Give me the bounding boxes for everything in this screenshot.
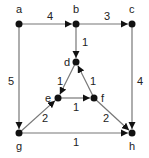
node-label-d: d xyxy=(64,56,70,68)
node-d xyxy=(73,59,80,66)
edge-weight-g-e: 2 xyxy=(42,112,48,124)
node-b xyxy=(73,21,80,28)
node-label-a: a xyxy=(16,3,23,15)
graph-diagram: 43154111221 abcdefgh xyxy=(0,0,149,158)
node-label-f: f xyxy=(101,92,105,104)
edge-weight-f-h: 2 xyxy=(103,112,109,124)
node-f xyxy=(91,95,98,102)
node-h xyxy=(129,130,136,137)
edges xyxy=(19,24,132,133)
node-label-g: g xyxy=(16,140,22,152)
node-e xyxy=(55,95,62,102)
node-label-h: h xyxy=(129,140,135,152)
edge-weight-b-c: 3 xyxy=(104,10,110,22)
node-a xyxy=(16,21,23,28)
node-c xyxy=(129,21,136,28)
edge-g-e xyxy=(19,101,55,133)
edge-weight-d-e: 1 xyxy=(57,75,63,87)
edge-weight-c-h: 4 xyxy=(137,75,143,87)
edge-weight-b-d: 1 xyxy=(82,36,88,48)
edge-weight-a-b: 4 xyxy=(47,10,53,22)
edge-f-h xyxy=(94,98,129,130)
edge-weight-f-d: 1 xyxy=(90,75,96,87)
node-g xyxy=(16,130,23,137)
node-label-e: e xyxy=(45,92,51,104)
edge-weight-a-g: 5 xyxy=(8,75,14,87)
node-label-b: b xyxy=(73,3,79,15)
edge-weight-e-f: 1 xyxy=(73,101,79,113)
edge-weight-g-h: 1 xyxy=(73,136,79,148)
node-label-c: c xyxy=(129,3,135,15)
